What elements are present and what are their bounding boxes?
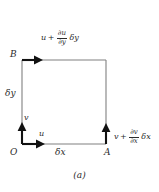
top-expr-base: u [41, 34, 46, 42]
right-expr-base: v [114, 133, 119, 141]
v-arrow-head [18, 122, 27, 131]
fluid-element-figure: B O A δx δy u v u + ∂u ∂y δy v + ∂v ∂x δ… [0, 0, 159, 192]
velocity-label-v: v [24, 114, 29, 122]
top-velocity-expression: u + ∂u ∂y δy [41, 30, 79, 46]
right-expr-denominator: ∂x [129, 138, 139, 146]
right-velocity-expression: v + ∂v ∂x δx [114, 129, 151, 145]
top-expr-denominator: ∂y [57, 39, 67, 47]
top-arrow-head [34, 56, 43, 65]
right-arrow-head [102, 123, 111, 132]
control-volume-rectangle [22, 60, 106, 144]
side-label-delta-y: δy [5, 89, 16, 98]
top-expr-operator: + [48, 34, 55, 42]
figure-canvas [0, 0, 159, 192]
point-label-a: A [104, 148, 111, 157]
top-expr-fraction: ∂u ∂y [57, 30, 67, 46]
right-expr-operator: + [120, 133, 127, 141]
velocity-arrows [18, 56, 111, 149]
u-arrow-head [36, 140, 45, 149]
velocity-label-u: u [39, 130, 44, 138]
right-expr-fraction: ∂v ∂x [129, 129, 139, 145]
top-expr-tail: δy [70, 34, 79, 42]
right-expr-tail: δx [141, 133, 150, 141]
figure-caption: (a) [0, 170, 159, 180]
origin-vertical-arrow [18, 122, 27, 144]
top-velocity-arrow [22, 56, 43, 65]
point-label-o: O [10, 148, 17, 157]
point-label-b: B [10, 50, 17, 59]
right-velocity-arrow [102, 123, 111, 144]
side-label-delta-x: δx [55, 148, 66, 157]
origin-horizontal-arrow [22, 140, 45, 149]
